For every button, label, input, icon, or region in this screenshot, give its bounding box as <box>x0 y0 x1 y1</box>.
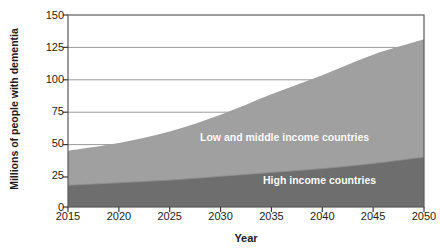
x-tick-2045: 2045 <box>351 210 395 222</box>
y-tick-25: 25 <box>34 169 64 181</box>
series-label-high-income: High income countries <box>263 174 376 186</box>
x-tick-2035: 2035 <box>249 210 293 222</box>
x-tick-2050: 2050 <box>402 210 440 222</box>
y-tick-125: 125 <box>34 41 64 53</box>
y-tick-150: 150 <box>34 9 64 21</box>
x-tick-2020: 2020 <box>97 210 141 222</box>
y-tick-100: 100 <box>34 73 64 85</box>
x-tick-2040: 2040 <box>300 210 344 222</box>
x-tick-2025: 2025 <box>148 210 192 222</box>
dementia-projection-chart: Millions of people with dementia 150 125… <box>0 0 440 251</box>
y-tick-50: 50 <box>34 137 64 149</box>
x-axis-title: Year <box>68 232 424 244</box>
x-tick-2030: 2030 <box>199 210 243 222</box>
y-axis-title: Millions of people with dementia <box>8 4 20 214</box>
series-label-low-and-middle-income: Low and middle income countries <box>200 131 369 143</box>
x-tick-2015: 2015 <box>46 210 90 222</box>
y-tick-75: 75 <box>34 105 64 117</box>
